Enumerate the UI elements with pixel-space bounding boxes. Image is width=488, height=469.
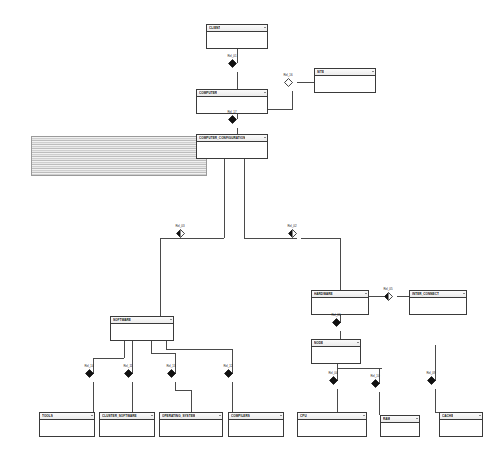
entity-body: [315, 76, 375, 92]
relationship-rel_11[interactable]: Rel_11: [124, 369, 133, 378]
relationship-rel_02[interactable]: Rel_02: [288, 229, 297, 238]
chevron-down-icon[interactable]: [357, 342, 359, 343]
entity-body: [298, 420, 366, 436]
entity-cache[interactable]: CACHE: [439, 412, 483, 437]
entity-tools[interactable]: TOOLS: [39, 412, 95, 437]
chevron-down-icon[interactable]: [151, 415, 153, 416]
entity-ram[interactable]: RAM: [380, 415, 420, 437]
entity-name: OPERATING_SYSTEM: [162, 412, 195, 421]
chevron-down-icon[interactable]: [363, 415, 365, 416]
entity-header[interactable]: HARDWARE: [312, 291, 368, 298]
entity-body: [207, 32, 267, 48]
connector-line: [93, 382, 94, 412]
entity-header[interactable]: CPU: [298, 413, 366, 420]
entity-operating_sys[interactable]: OPERATING_SYSTEM: [159, 412, 223, 437]
diamond-icon: [427, 376, 436, 385]
relationship-rel_04[interactable]: Rel_04: [329, 376, 338, 385]
entity-name: HARDWARE: [314, 290, 333, 299]
connector-line: [224, 159, 225, 238]
entity-header[interactable]: COMPUTER_CONFIGURATION: [197, 135, 267, 142]
entity-name: CACHE: [442, 412, 453, 421]
diamond-icon: [371, 379, 380, 388]
entity-software[interactable]: SOFTWARE: [110, 316, 174, 341]
connector-line: [337, 368, 382, 369]
entity-cluster_sw[interactable]: CLUSTER_SOFTWARE: [99, 412, 155, 437]
relationship-rel_13[interactable]: Rel_13: [167, 369, 176, 378]
entity-hardware[interactable]: HARDWARE: [311, 290, 369, 315]
relationship-rel_10[interactable]: Rel_10: [371, 379, 380, 388]
connector-line: [397, 296, 409, 297]
chevron-down-icon[interactable]: [91, 415, 93, 416]
relationship-label: Rel_13: [166, 363, 175, 368]
chevron-down-icon[interactable]: [280, 415, 282, 416]
diamond-icon: [288, 229, 297, 238]
relationship-rel_09[interactable]: Rel_09: [427, 376, 436, 385]
connector-line: [237, 49, 238, 63]
relationship-label: Rel_02: [287, 223, 296, 228]
relationship-label: Rel_12: [223, 363, 232, 368]
relationship-rel_05[interactable]: Rel_05: [384, 292, 393, 301]
entity-node[interactable]: NODE: [311, 339, 361, 364]
entity-name: CLIENT: [209, 24, 220, 33]
diamond-icon: [85, 369, 94, 378]
entity-header[interactable]: SOFTWARE: [111, 317, 173, 324]
entity-name: CLUSTER_SOFTWARE: [102, 412, 137, 421]
relationship-rel_17[interactable]: Rel_17: [228, 115, 237, 124]
diamond-icon: [384, 292, 393, 301]
entity-header[interactable]: SITE: [315, 69, 375, 76]
entity-header[interactable]: COMPILERS: [229, 413, 283, 420]
chevron-down-icon[interactable]: [264, 137, 266, 138]
chevron-down-icon[interactable]: [365, 293, 367, 294]
entity-header[interactable]: OPERATING_SYSTEM: [160, 413, 222, 420]
diamond-icon: [329, 376, 338, 385]
chevron-down-icon[interactable]: [170, 319, 172, 320]
connector-line: [379, 392, 380, 415]
connector-line: [237, 72, 238, 89]
entity-header[interactable]: CLUSTER_SOFTWARE: [100, 413, 154, 420]
relationship-rel_12[interactable]: Rel_12: [224, 369, 233, 378]
entity-header[interactable]: COMPUTER: [197, 90, 267, 97]
connector-line: [268, 109, 293, 110]
entity-header[interactable]: INTER_CONNECT: [410, 291, 466, 298]
relationship-label: Rel_17: [227, 109, 236, 114]
relationship-label: Rel_04: [328, 370, 337, 375]
connector-line: [132, 382, 133, 412]
relationship-rel_06[interactable]: Rel_06: [332, 318, 341, 327]
chevron-down-icon[interactable]: [416, 418, 418, 419]
entity-client[interactable]: CLIENT: [206, 24, 268, 49]
connector-line: [124, 341, 125, 358]
attribute-list-panel: [31, 136, 207, 176]
entity-header[interactable]: RAM: [381, 416, 419, 423]
entity-compilers[interactable]: COMPILERS: [228, 412, 284, 437]
relationship-rel_03[interactable]: Rel_03: [176, 229, 185, 238]
entity-site[interactable]: SITE: [314, 68, 376, 93]
chevron-down-icon[interactable]: [479, 415, 481, 416]
relationship-label: Rel_10: [370, 373, 379, 378]
entity-header[interactable]: NODE: [312, 340, 360, 347]
entity-body: [381, 423, 419, 436]
entity-cpu[interactable]: CPU: [297, 412, 367, 437]
connector-line: [244, 159, 245, 238]
entity-name: SOFTWARE: [113, 316, 131, 325]
connector-line: [232, 382, 233, 412]
chevron-down-icon[interactable]: [264, 27, 266, 28]
entity-computer_conf[interactable]: COMPUTER_CONFIGURATION: [196, 134, 268, 159]
relationship-rel_14[interactable]: Rel_14: [85, 369, 94, 378]
entity-body: [229, 420, 283, 436]
connector-line: [435, 389, 436, 412]
relationship-rel_16[interactable]: Rel_16: [284, 78, 293, 87]
diamond-icon: [228, 59, 237, 68]
entity-header[interactable]: CACHE: [440, 413, 482, 420]
chevron-down-icon[interactable]: [264, 92, 266, 93]
entity-name: CPU: [300, 412, 307, 421]
entity-header[interactable]: CLIENT: [207, 25, 267, 32]
connector-line: [337, 389, 338, 412]
connector-line: [175, 382, 176, 390]
chevron-down-icon[interactable]: [463, 293, 465, 294]
chevron-down-icon[interactable]: [372, 71, 374, 72]
chevron-down-icon[interactable]: [219, 415, 221, 416]
diamond-icon: [228, 115, 237, 124]
entity-interconnect[interactable]: INTER_CONNECT: [409, 290, 467, 315]
relationship-rel_01[interactable]: Rel_01: [228, 59, 237, 68]
entity-header[interactable]: TOOLS: [40, 413, 94, 420]
